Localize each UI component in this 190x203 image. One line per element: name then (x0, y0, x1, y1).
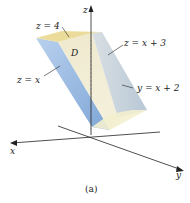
label-left-plane: z = x (16, 75, 40, 85)
z-axis-arrow (89, 5, 94, 12)
axis-label-y: y (175, 170, 182, 180)
x-axis (12, 132, 160, 143)
axis-label-z: z (82, 5, 88, 15)
figure-canvas: z = 4 D z = x z = x + 3 y = x + 2 z x y … (0, 0, 190, 203)
label-region: D (70, 48, 78, 58)
axis-label-x: x (10, 146, 15, 156)
label-right-plane: z = x + 3 (123, 38, 166, 48)
figure-caption: (a) (85, 184, 97, 194)
y-axis (58, 126, 182, 170)
label-top-plane: z = 4 (35, 21, 60, 31)
label-side-plane: y = x + 2 (136, 83, 180, 93)
